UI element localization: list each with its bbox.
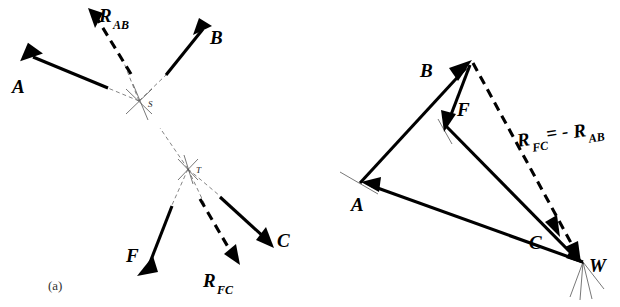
vector-f-shaft [149, 206, 172, 265]
vector-resultant-shaft [473, 63, 576, 252]
vector-label-rab-sub: AB [112, 18, 129, 32]
vector-label-rfc-main: R [202, 270, 216, 291]
figure-canvas: S A B R AB [0, 0, 620, 307]
construction-lines-s [103, 63, 167, 120]
vector-c-space [220, 197, 274, 248]
vector-label-a-polygon: A [350, 194, 364, 215]
point-label-t: T [196, 165, 202, 175]
vector-label-rfc: R FC [202, 270, 234, 297]
vector-a-arrowhead [20, 43, 44, 68]
vector-label-c-polygon: C [529, 232, 542, 253]
vector-b-polygon [360, 60, 472, 183]
vector-c-arrowhead [256, 227, 274, 248]
vector-label-rfc-sub: FC [216, 283, 234, 297]
cross-mark-s-3 [133, 84, 148, 120]
vector-label-rab-main: R [98, 5, 112, 26]
vector-b-shaft [166, 29, 203, 75]
point-label-s: S [148, 99, 153, 109]
vector-c-shaft [220, 197, 265, 238]
vector-a-shaft [33, 57, 108, 88]
vector-label-a: A [11, 76, 25, 97]
equation-lead: R [514, 128, 531, 151]
vector-resultant-polygon [473, 63, 581, 263]
equation-trail: R [571, 119, 588, 142]
fan-line-2 [580, 262, 583, 300]
construction-line-a-ext [103, 86, 139, 101]
vector-c-polygon [446, 126, 584, 264]
equation-rfc-equals-minus-rab: R FC = - R AB [514, 115, 605, 157]
caption-a: (a) [48, 278, 62, 293]
vector-label-c: C [277, 230, 290, 251]
vector-f-arrowhead [137, 256, 158, 276]
construction-line-t-up [160, 128, 188, 169]
vector-label-b-polygon: B [419, 60, 433, 81]
vector-label-f: F [125, 245, 139, 266]
equation-operator: = - [545, 120, 570, 144]
vector-b-space [166, 18, 212, 75]
vector-f-space [137, 206, 172, 276]
construction-line-f-ext [172, 169, 188, 205]
vector-label-b: B [209, 27, 223, 48]
vertex-label-w: W [589, 255, 607, 276]
vector-b-poly-shaft [360, 68, 466, 183]
vector-rfc-arrowhead [224, 244, 240, 265]
vector-label-f-polygon: F [456, 99, 470, 120]
construction-lines-t [160, 128, 220, 205]
force-diagram-svg: S A B R AB [0, 0, 620, 307]
vector-rfc-shaft [200, 199, 231, 252]
equation-trail-sub: AB [587, 129, 606, 145]
vector-a-space [20, 43, 108, 88]
cross-mark-t-3 [184, 155, 193, 184]
force-polygon: B F A C [340, 60, 607, 300]
space-diagram: S A B R AB [11, 5, 290, 297]
vector-label-rab: R AB [98, 5, 129, 32]
